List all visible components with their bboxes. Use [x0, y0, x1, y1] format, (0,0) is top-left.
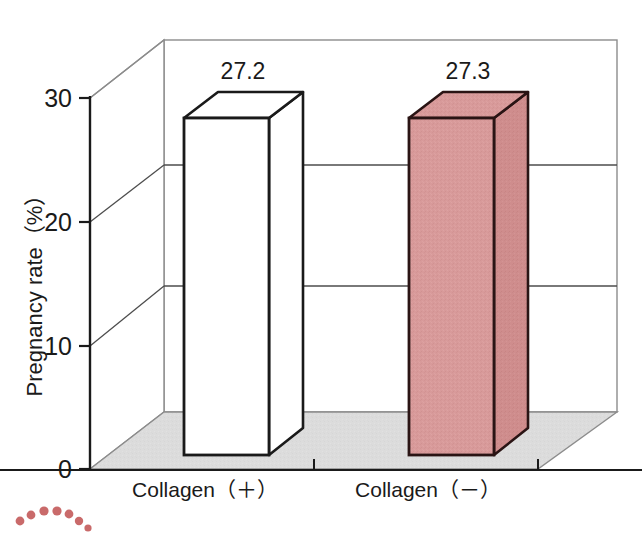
- bar-front-face: [409, 118, 494, 455]
- x-category-label-collagen-plus: Collagen（＋）: [132, 478, 278, 501]
- x-category-label-collagen-minus: Collagen（－）: [355, 478, 501, 501]
- bar-chart-3d: 30 20 10 0 Pregnancy rate（%）: [0, 0, 642, 535]
- bar-collagen-plus[interactable]: [184, 92, 303, 455]
- ornament-dot: [27, 511, 36, 520]
- ornament-dot: [52, 506, 61, 515]
- bar-collagen-minus[interactable]: [409, 92, 528, 455]
- bar-side-face: [269, 92, 303, 455]
- bar-value-label-collagen-minus: 27.3: [446, 58, 491, 84]
- bar-value-label-collagen-plus: 27.2: [221, 58, 266, 84]
- y-axis: [79, 96, 90, 470]
- ornament-dot: [75, 517, 83, 525]
- bar-front-face: [184, 118, 269, 455]
- bar-side-face: [494, 92, 528, 455]
- ornament-dot: [16, 517, 25, 526]
- y-tick-label-20: 20: [44, 208, 72, 236]
- ornament-dot: [84, 524, 91, 531]
- y-axis-title: Pregnancy rate（%）: [22, 184, 47, 397]
- y-tick-label-10: 10: [44, 332, 72, 360]
- ornament-dot: [39, 506, 48, 515]
- ornament-dot: [65, 510, 74, 519]
- y-tick-label-30: 30: [44, 84, 72, 112]
- chart-figure: 30 20 10 0 Pregnancy rate（%）: [0, 0, 642, 535]
- plot-left-wall: [90, 40, 164, 469]
- dot-arc-ornament: [16, 506, 92, 531]
